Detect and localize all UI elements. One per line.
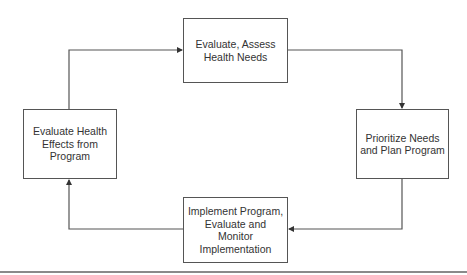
- node-implement-program: Implement Program, Evaluate and Monitor …: [183, 197, 288, 263]
- cycle-diagram: Evaluate, Assess Health Needs Prioritize…: [0, 0, 467, 275]
- node-label: Implement Program, Evaluate and Monitor …: [186, 205, 285, 255]
- edge-right-to-bottom: [289, 179, 402, 229]
- edge-bottom-to-left: [69, 180, 183, 229]
- node-evaluate-health-effects: Evaluate Health Effects from Program: [23, 109, 117, 179]
- node-prioritize-needs-plan-program: Prioritize Needs and Plan Program: [356, 109, 449, 179]
- bottom-divider: [0, 271, 467, 273]
- node-label: Evaluate, Assess Health Needs: [196, 38, 276, 63]
- node-evaluate-assess-health-needs: Evaluate, Assess Health Needs: [183, 18, 288, 83]
- edge-left-to-top: [69, 50, 182, 109]
- node-label: Evaluate Health Effects from Program: [33, 125, 107, 163]
- node-label: Prioritize Needs and Plan Program: [360, 132, 445, 157]
- edge-top-to-right: [288, 50, 402, 108]
